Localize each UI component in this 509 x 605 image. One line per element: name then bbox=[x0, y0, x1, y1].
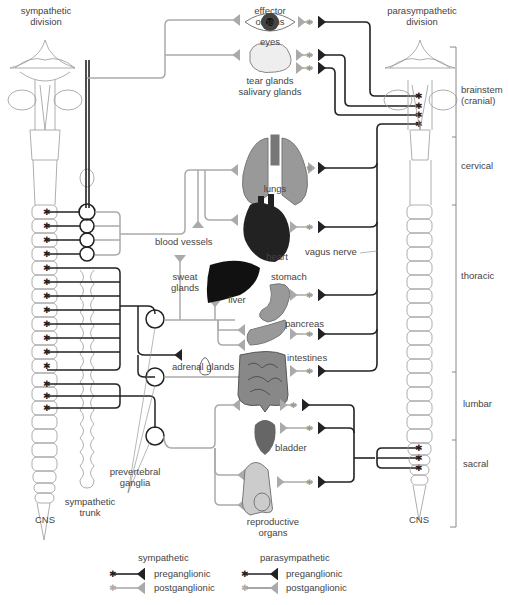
legend-title-parasympathetic: parasympathetic bbox=[260, 552, 330, 563]
legend-title-sympathetic: sympathetic bbox=[138, 552, 189, 563]
label-line: salivary glands bbox=[232, 86, 308, 97]
region-brainstem: brainstem (cranial) bbox=[461, 84, 503, 106]
label-line: trunk bbox=[60, 507, 120, 518]
label-line: tear glands bbox=[232, 75, 308, 86]
svg-text:✱: ✱ bbox=[415, 443, 423, 453]
organ-intestines bbox=[238, 352, 288, 413]
header-line: sympathetic bbox=[18, 5, 74, 16]
svg-text:✱: ✱ bbox=[306, 478, 313, 487]
label-line: ganglia bbox=[105, 477, 165, 488]
header-line: division bbox=[382, 16, 462, 27]
organ-reproductive bbox=[242, 463, 272, 516]
label-line: organs bbox=[233, 527, 313, 538]
svg-text:✱: ✱ bbox=[43, 291, 51, 301]
label-sympathetic-trunk: sympathetic trunk bbox=[60, 496, 120, 518]
svg-text:✱: ✱ bbox=[43, 207, 51, 217]
label-liver: liver bbox=[222, 294, 252, 305]
svg-text:✱: ✱ bbox=[43, 263, 51, 273]
label-line: reproductive bbox=[233, 516, 313, 527]
organ-tear-glands bbox=[250, 44, 291, 73]
label-pancreas: pancreas bbox=[285, 318, 324, 329]
svg-text:✱: ✱ bbox=[43, 379, 51, 389]
svg-text:✱: ✱ bbox=[43, 249, 51, 259]
label-stomach: stomach bbox=[271, 271, 307, 282]
svg-text:✱: ✱ bbox=[290, 401, 297, 410]
label-bladder: bladder bbox=[275, 442, 307, 453]
svg-text:✱: ✱ bbox=[43, 305, 51, 315]
parasympathetic-origin-marks: ✱✱✱✱ ✱✱✱ bbox=[415, 91, 423, 473]
region-line: (cranial) bbox=[461, 95, 503, 106]
svg-text:✱: ✱ bbox=[43, 333, 51, 343]
svg-text:✱: ✱ bbox=[306, 367, 313, 376]
label-heart: heart bbox=[262, 251, 292, 262]
svg-text:✱: ✱ bbox=[43, 347, 51, 357]
svg-text:✱: ✱ bbox=[306, 291, 313, 300]
svg-text:✱: ✱ bbox=[415, 463, 423, 473]
label-intestines: intestines bbox=[287, 352, 327, 363]
svg-text:✱: ✱ bbox=[306, 223, 313, 232]
svg-text:✱: ✱ bbox=[306, 424, 313, 433]
legend-sympathetic-preganglionic: preganglionic bbox=[154, 568, 211, 579]
header-effector-organs: effector organs bbox=[240, 5, 300, 27]
label-vagus-nerve: vagus nerve bbox=[305, 246, 357, 257]
label-sweat-glands: sweat glands bbox=[170, 271, 200, 293]
svg-text:✱: ✱ bbox=[43, 391, 51, 401]
label-tear-salivary-glands: tear glands salivary glands bbox=[232, 75, 308, 97]
header-line: organs bbox=[240, 16, 300, 27]
region-cervical: cervical bbox=[461, 160, 493, 171]
svg-text:✱: ✱ bbox=[415, 453, 423, 463]
label-line: glands bbox=[170, 282, 200, 293]
organ-lungs bbox=[243, 135, 308, 205]
svg-text:✱: ✱ bbox=[43, 319, 51, 329]
svg-text:✱: ✱ bbox=[43, 277, 51, 287]
header-line: effector bbox=[240, 5, 300, 16]
header-parasympathetic-division: parasympathetic division bbox=[382, 5, 462, 27]
sympathetic-preganglionic-lower bbox=[47, 268, 182, 445]
label-line: sweat bbox=[170, 271, 200, 282]
label-prevertebral-ganglia: prevertebral ganglia bbox=[105, 466, 165, 488]
label-cns-left: CNS bbox=[30, 514, 60, 525]
legend-parasympathetic-preganglionic: preganglionic bbox=[286, 568, 343, 579]
svg-text:✱: ✱ bbox=[415, 91, 423, 101]
header-sympathetic-division: sympathetic division bbox=[18, 5, 74, 27]
svg-text:✱: ✱ bbox=[241, 569, 249, 579]
svg-text:✱: ✱ bbox=[241, 583, 249, 593]
region-line: brainstem bbox=[461, 84, 503, 95]
label-line: sympathetic bbox=[60, 496, 120, 507]
svg-text:✱: ✱ bbox=[306, 64, 313, 73]
header-line: division bbox=[18, 16, 74, 27]
svg-text:✱: ✱ bbox=[43, 221, 51, 231]
header-line: parasympathetic bbox=[382, 5, 462, 16]
svg-text:✱: ✱ bbox=[43, 403, 51, 413]
label-adrenal-glands: adrenal glands bbox=[172, 361, 234, 372]
sympathetic-origin-marks: ✱✱✱✱ ✱✱✱✱ ✱✱✱✱ ✱✱✱ bbox=[43, 207, 51, 413]
left-brainstem-drawing bbox=[8, 40, 82, 160]
region-thoracic: thoracic bbox=[461, 270, 494, 281]
svg-text:✱: ✱ bbox=[306, 330, 313, 339]
label-line: prevertebral bbox=[105, 466, 165, 477]
region-bracket bbox=[450, 47, 456, 527]
label-eyes: eyes bbox=[255, 36, 285, 47]
organ-bladder bbox=[254, 420, 275, 455]
organ-pancreas bbox=[247, 320, 287, 345]
svg-text:✱: ✱ bbox=[43, 235, 51, 245]
region-lumbar: lumbar bbox=[463, 398, 492, 409]
label-cns-right: CNS bbox=[404, 514, 434, 525]
region-sacral: sacral bbox=[463, 458, 488, 469]
legend-parasympathetic-postganglionic: postganglionic bbox=[286, 582, 347, 593]
svg-text:✱: ✱ bbox=[306, 18, 313, 27]
sympathetic-trunk-chain bbox=[80, 169, 94, 488]
legend-sympathetic-postganglionic: postganglionic bbox=[154, 582, 215, 593]
svg-text:✱: ✱ bbox=[109, 583, 117, 593]
svg-text:✱: ✱ bbox=[43, 361, 51, 371]
svg-text:✱: ✱ bbox=[306, 164, 313, 173]
label-blood-vessels: blood vessels bbox=[155, 236, 213, 247]
organ-stomach bbox=[260, 284, 290, 322]
vagus-pointer bbox=[360, 251, 377, 253]
label-reproductive-organs: reproductive organs bbox=[233, 516, 313, 538]
label-lungs: lungs bbox=[260, 183, 290, 194]
svg-text:✱: ✱ bbox=[306, 51, 313, 60]
svg-text:✱: ✱ bbox=[109, 569, 117, 579]
